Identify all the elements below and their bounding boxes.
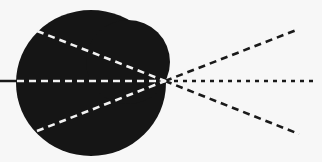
focal-point: [164, 80, 167, 83]
diagram-canvas: [0, 0, 322, 162]
ray-diagram: [0, 0, 322, 162]
